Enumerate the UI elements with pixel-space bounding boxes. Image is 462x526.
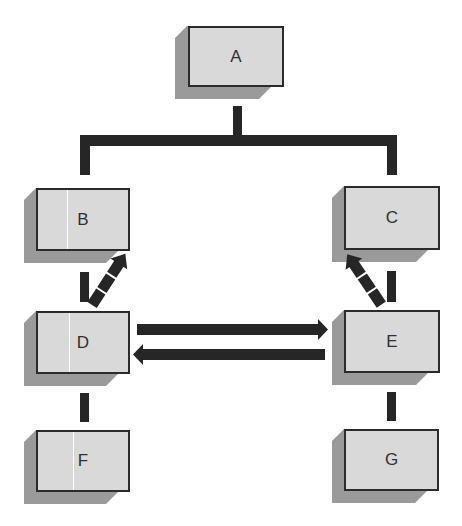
arrow-d-to-e xyxy=(137,319,328,340)
arrow-d-to-b xyxy=(84,248,134,310)
arrows-layer xyxy=(0,0,462,526)
arrow-e-to-d xyxy=(133,344,325,365)
arrow-e-to-c xyxy=(339,249,390,311)
